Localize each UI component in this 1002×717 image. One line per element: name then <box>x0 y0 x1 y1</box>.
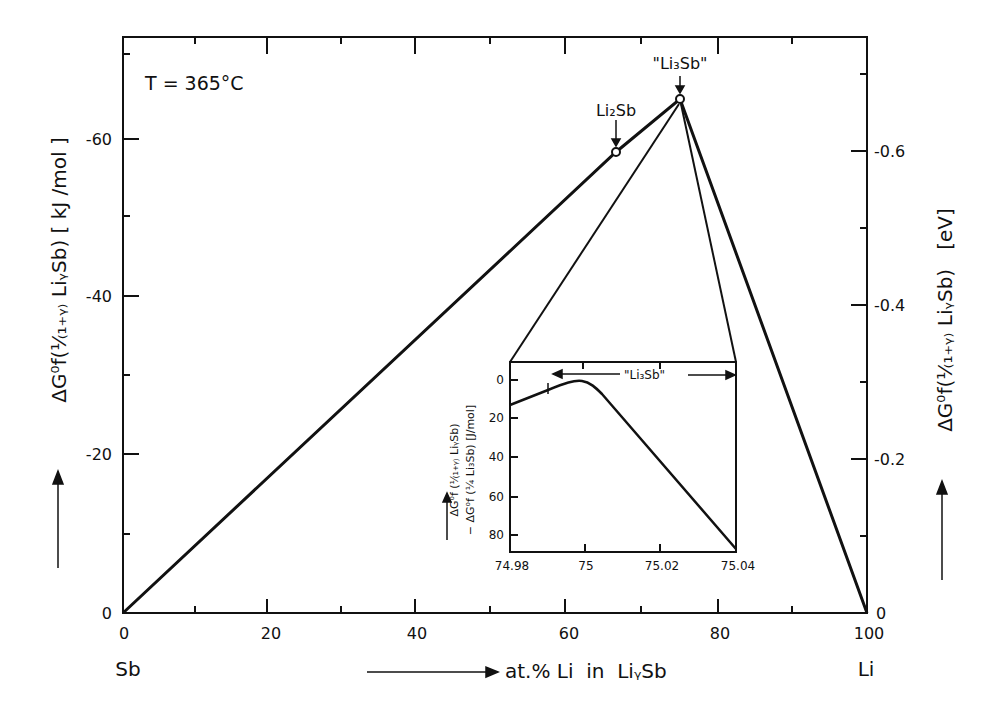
x-axis-ticks <box>123 599 792 613</box>
y-right-ticks <box>851 74 867 536</box>
y-left-tick-label: -60 <box>86 130 112 149</box>
y-right-axis-arrow-icon <box>937 481 947 580</box>
y-right-tick-label: 0 <box>876 604 886 623</box>
x-axis-title: at.% Li in LiᵧSb <box>505 659 667 683</box>
label-li2sb: Li₂Sb <box>596 101 636 120</box>
point-li3sb <box>676 95 684 103</box>
inset-x-tick: 75.04 <box>721 559 755 573</box>
y-left-tick-label: -20 <box>86 445 112 464</box>
top-axis-ticks <box>195 37 792 54</box>
y-right-tick-label: -0.2 <box>874 450 905 469</box>
inset-y-tick: 0 <box>496 373 504 387</box>
y-left-tick-label: -40 <box>86 287 112 306</box>
x-tick-label: 20 <box>261 624 281 643</box>
inset-y-tick: 20 <box>489 411 504 425</box>
inset-y-tick: 40 <box>489 450 504 464</box>
temperature-label: T = 365°C <box>144 72 244 94</box>
inset-y-tick: 80 <box>489 528 504 542</box>
point-li2sb <box>612 148 620 156</box>
y-left-axis-title: ΔG⁰f(¹⁄₍₁₊ᵧ₎ LiᵧSb) [ kJ /mol ] <box>47 137 71 402</box>
inset-x-tick: 75.02 <box>645 559 679 573</box>
x-end-label-li: Li <box>858 657 875 681</box>
inset-chart: "Li₃Sb" 0 20 40 60 80 74.98 75 75.02 75.… <box>443 362 755 573</box>
x-tick-label: 40 <box>407 624 427 643</box>
x-end-label-sb: Sb <box>115 657 140 681</box>
y-left-ticks <box>123 54 139 534</box>
inset-y-axis-title-2: − ΔG⁰f (¼ Li₃Sb) [J/mol] <box>464 405 477 535</box>
chart-figure: "Li₃Sb" 0 20 40 60 80 74.98 75 75.02 75.… <box>0 0 1002 717</box>
zoom-connector-lines <box>510 104 736 362</box>
inset-x-tick: 75 <box>578 559 593 573</box>
x-tick-label: 60 <box>559 624 579 643</box>
y-right-tick-label: -0.6 <box>874 142 905 161</box>
inset-x-tick: 74.98 <box>495 559 529 573</box>
plot-frame <box>123 37 867 613</box>
x-tick-label: 100 <box>854 624 885 643</box>
y-left-tick-label: 0 <box>102 604 112 623</box>
inset-y-tick: 60 <box>489 490 504 504</box>
y-right-tick-label: -0.4 <box>874 296 905 315</box>
x-axis-arrow-icon <box>367 667 498 677</box>
x-tick-label: 0 <box>119 624 129 643</box>
y-left-axis-arrow-icon <box>53 471 63 568</box>
inset-range-label: "Li₃Sb" <box>624 368 665 382</box>
label-li3sb: "Li₃Sb" <box>653 54 708 73</box>
y-right-axis-title: ΔG⁰f(¹⁄₍₁₊ᵧ₎ LiᵧSb) [eV] <box>933 208 957 432</box>
x-tick-label: 80 <box>710 624 730 643</box>
